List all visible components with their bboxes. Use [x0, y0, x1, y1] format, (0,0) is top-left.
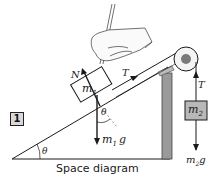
angle-arc-incline	[37, 144, 40, 159]
pulley-axle	[181, 54, 191, 64]
tension-hanging-arrowhead	[193, 71, 199, 78]
tension-hanging-label: T	[198, 80, 205, 90]
support-post	[162, 73, 172, 159]
angle-incline-label: θ	[42, 147, 47, 156]
figure-number-badge: 1	[10, 112, 24, 126]
hand-with-pencil-icon	[91, 4, 152, 64]
weight-m1-arrowhead	[94, 138, 100, 145]
angle-arc-block	[97, 119, 110, 123]
mass2-label: m2	[188, 104, 203, 118]
physics-diagram: 1 N T m1 θ m1 g θ T m2 m2g Space diagram	[0, 0, 211, 183]
figure-caption: Space diagram	[56, 162, 139, 175]
diagram-drawing	[0, 0, 211, 183]
weight-m1-label: m1 g	[102, 134, 126, 148]
weight-m2-arrowhead	[193, 144, 199, 151]
mass1-label: m1	[82, 83, 97, 97]
normal-force-label: N	[71, 70, 80, 80]
tension-incline-label: T	[122, 68, 129, 78]
weight-m2-label: m2g	[186, 155, 206, 167]
angle-block-label: θ	[101, 108, 106, 117]
normal-force-arrowhead	[81, 68, 87, 75]
